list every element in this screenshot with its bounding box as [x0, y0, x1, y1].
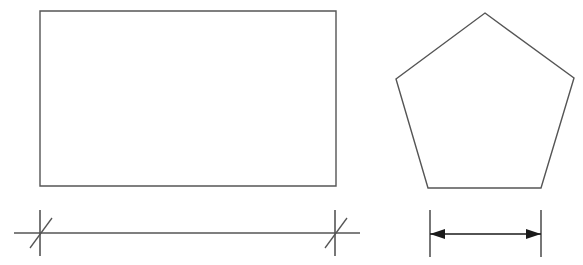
figure-canvas: Geometric shapes with linear dimension a…: [0, 0, 583, 265]
figure-background: [0, 0, 583, 265]
